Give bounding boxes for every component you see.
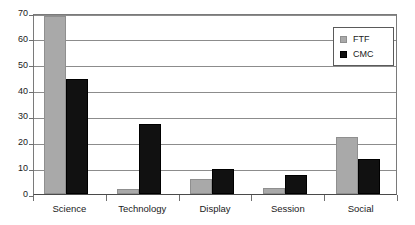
bar-technology-ftf xyxy=(117,189,139,194)
ftf-swatch-icon xyxy=(340,36,347,43)
x-tick-1 xyxy=(106,195,107,201)
x-tick-label-science: Science xyxy=(52,203,86,215)
y-tick-label-0: 0 xyxy=(4,190,28,199)
bar-social-ftf xyxy=(336,137,358,194)
bar-session-cmc xyxy=(285,175,307,194)
chart-legend: FTF CMC xyxy=(333,27,394,66)
y-tick-label-60: 60 xyxy=(4,35,28,44)
legend-item-ftf: FTF xyxy=(340,32,393,47)
y-tick-label-30: 30 xyxy=(4,112,28,121)
bar-display-ftf xyxy=(190,179,212,195)
bar-group-science xyxy=(34,15,107,194)
bar-technology-cmc xyxy=(139,124,161,194)
x-tick-0 xyxy=(33,195,34,201)
bar-science-cmc xyxy=(66,79,88,194)
x-tick-label-display: Display xyxy=(199,203,230,215)
bar-display-cmc xyxy=(212,169,234,194)
bar-group-session xyxy=(252,15,325,194)
cmc-swatch-icon xyxy=(340,51,347,58)
x-tick-2 xyxy=(179,195,180,201)
y-tick-label-50: 50 xyxy=(4,61,28,70)
x-axis: ScienceTechnologyDisplaySessionSocial xyxy=(33,203,397,219)
y-tick-label-10: 10 xyxy=(4,164,28,173)
x-tick-label-technology: Technology xyxy=(118,203,166,215)
x-tick-end xyxy=(397,195,398,201)
x-tick-4 xyxy=(324,195,325,201)
x-tick-label-session: Session xyxy=(271,203,305,215)
legend-item-cmc: CMC xyxy=(340,47,393,62)
legend-label-ftf: FTF xyxy=(353,35,370,44)
bar-science-ftf xyxy=(44,16,66,194)
y-tick-label-20: 20 xyxy=(4,138,28,147)
x-tick-label-social: Social xyxy=(348,203,374,215)
bar-chart: 010203040506070 ScienceTechnologyDisplay… xyxy=(0,0,415,225)
bar-session-ftf xyxy=(263,188,285,194)
bar-group-display xyxy=(180,15,253,194)
bar-group-technology xyxy=(107,15,180,194)
bar-social-cmc xyxy=(358,159,380,194)
y-tick-label-40: 40 xyxy=(4,87,28,96)
y-axis: 010203040506070 xyxy=(0,14,28,195)
legend-label-cmc: CMC xyxy=(353,50,374,59)
x-tick-3 xyxy=(251,195,252,201)
y-tick-label-70: 70 xyxy=(4,9,28,18)
